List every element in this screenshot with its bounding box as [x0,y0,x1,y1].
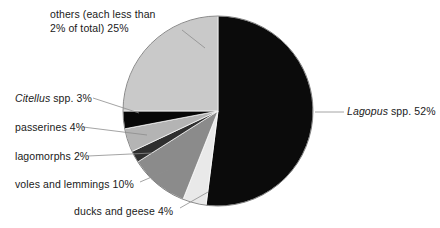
slice-label-lagopus-genus: Lagopus [347,105,388,117]
slice-label-lagopus: Lagopus spp. 52% [347,105,436,119]
slice-label-lagomorphs: lagomorphs 2% [15,150,89,164]
slice-label-others-line1: others (each less than [50,8,156,20]
slice-label-passerines: passerines 4% [15,121,85,135]
slice-label-lagopus-rest: spp. 52% [388,105,436,117]
slice-label-citellus-genus: Citellus [15,92,50,104]
slice-label-ducks-and-geese: ducks and geese 4% [74,205,173,219]
slice-label-citellus-rest: spp. 3% [50,92,92,104]
pie-chart-figure: others (each less than 2% of total) 25% … [0,0,440,228]
slice-label-others: others (each less than 2% of total) 25% [50,8,182,35]
slice-label-others-line2: 2% of total) 25% [50,22,129,34]
slice-label-citellus: Citellus spp. 3% [15,92,92,106]
slice-label-voles-and-lemmings: voles and lemmings 10% [15,178,134,192]
pie-slice-lagopus[interactable] [206,16,313,206]
